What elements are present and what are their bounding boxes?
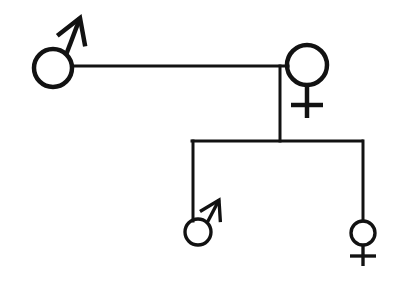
connector-layer <box>72 66 363 221</box>
venus-symbol-circle <box>287 45 327 85</box>
node-son[interactable] <box>185 200 220 245</box>
node-father[interactable] <box>34 18 85 87</box>
node-daughter[interactable] <box>350 221 376 266</box>
pedigree-canvas <box>0 0 397 283</box>
pedigree-diagram <box>0 0 397 283</box>
venus-symbol-circle <box>351 221 375 245</box>
node-mother[interactable] <box>287 45 327 118</box>
